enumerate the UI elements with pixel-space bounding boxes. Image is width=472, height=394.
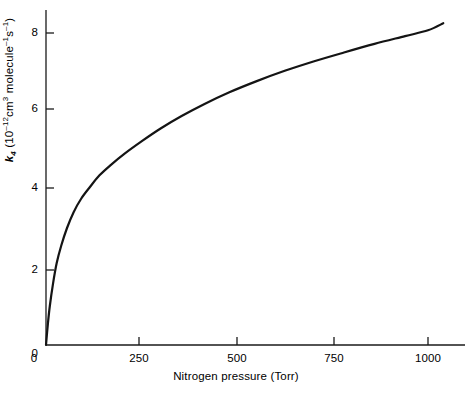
chart-figure: 02468 02505007501000 Nitrogen pressure (… — [0, 0, 472, 394]
x-axis-title: Nitrogen pressure (Torr) — [0, 370, 472, 382]
x-tick-label: 1000 — [415, 353, 441, 365]
y-axis-exp-12: –12 — [1, 117, 10, 131]
y-axis-unit-molecule: molecule — [3, 46, 15, 97]
x-tick-label: 500 — [227, 353, 247, 365]
y-axis-unit-s: s — [3, 31, 15, 37]
y-axis-unit-cm: cm — [3, 101, 15, 117]
x-tick-label: 0 — [31, 353, 38, 365]
y-axis-symbol-subscript: 4 — [9, 151, 18, 156]
y-axis-title-container: k4 (10–12cm3 molecule–1s–1) — [3, 0, 23, 190]
y-tick-label: 2 — [20, 264, 38, 276]
x-axis-ticks — [139, 337, 428, 345]
y-axis-exp-minus1-a: –1 — [1, 37, 10, 46]
x-tick-label: 750 — [324, 353, 344, 365]
y-axis-ticks — [46, 33, 54, 270]
y-axis-exp-3: 3 — [1, 97, 10, 102]
y-axis-unit-close: ) — [3, 18, 15, 22]
y-axis-symbol: k — [3, 156, 15, 163]
x-tick-label: 250 — [129, 353, 149, 365]
y-axis-unit-open: (10 — [3, 131, 15, 151]
data-series-curve — [46, 23, 443, 345]
y-axis-exp-minus1-b: –1 — [1, 22, 10, 31]
plot-canvas — [0, 0, 472, 394]
y-axis-title: k4 (10–12cm3 molecule–1s–1) — [3, 0, 15, 190]
